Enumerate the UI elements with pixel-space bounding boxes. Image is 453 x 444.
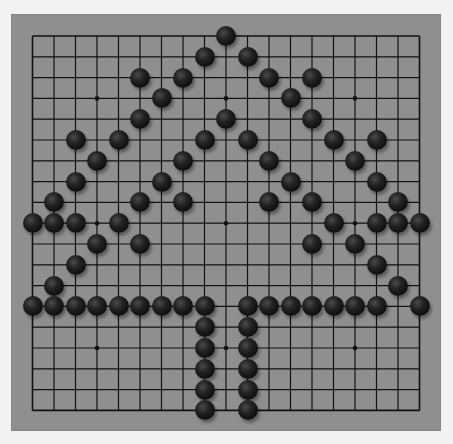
black-stone[interactable] [410, 213, 430, 233]
black-stone[interactable] [238, 130, 258, 150]
black-stone[interactable] [23, 213, 43, 233]
black-stone[interactable] [66, 213, 86, 233]
star-point [95, 96, 100, 101]
black-stone[interactable] [23, 296, 43, 316]
black-stone[interactable] [216, 26, 236, 46]
black-stone[interactable] [152, 296, 172, 316]
go-board[interactable] [11, 14, 441, 431]
black-stone[interactable] [238, 400, 258, 420]
star-point [353, 96, 358, 101]
black-stone[interactable] [109, 130, 129, 150]
black-stone[interactable] [66, 172, 86, 192]
black-stone[interactable] [410, 296, 430, 316]
black-stone[interactable] [259, 68, 279, 88]
black-stone[interactable] [195, 359, 215, 379]
black-stone[interactable] [87, 151, 107, 171]
black-stone[interactable] [302, 68, 322, 88]
star-point [353, 221, 358, 226]
black-stone[interactable] [238, 338, 258, 358]
black-stone[interactable] [345, 234, 365, 254]
black-stone[interactable] [130, 68, 150, 88]
black-stone[interactable] [66, 130, 86, 150]
star-point [353, 346, 358, 351]
black-stone[interactable] [87, 234, 107, 254]
star-point [224, 221, 229, 226]
star-point [224, 96, 229, 101]
black-stone[interactable] [324, 213, 344, 233]
black-stone[interactable] [109, 296, 129, 316]
black-stone[interactable] [152, 172, 172, 192]
black-stone[interactable] [388, 276, 408, 296]
black-stone[interactable] [44, 276, 64, 296]
black-stone[interactable] [152, 88, 172, 108]
black-stone[interactable] [109, 213, 129, 233]
black-stone[interactable] [195, 296, 215, 316]
black-stone[interactable] [195, 400, 215, 420]
black-stone[interactable] [367, 296, 387, 316]
black-stone[interactable] [259, 151, 279, 171]
black-stone[interactable] [173, 68, 193, 88]
black-stone[interactable] [367, 213, 387, 233]
black-stone[interactable] [238, 47, 258, 67]
black-stone[interactable] [367, 130, 387, 150]
black-stone[interactable] [195, 130, 215, 150]
black-stone[interactable] [281, 172, 301, 192]
black-stone[interactable] [173, 151, 193, 171]
black-stone[interactable] [195, 47, 215, 67]
black-stone[interactable] [367, 255, 387, 275]
black-stone[interactable] [195, 317, 215, 337]
black-stone[interactable] [195, 338, 215, 358]
black-stone[interactable] [324, 296, 344, 316]
black-stone[interactable] [281, 88, 301, 108]
black-stone[interactable] [281, 296, 301, 316]
star-point [95, 221, 100, 226]
star-point [95, 346, 100, 351]
black-stone[interactable] [302, 234, 322, 254]
black-stone[interactable] [66, 255, 86, 275]
black-stone[interactable] [130, 234, 150, 254]
black-stone[interactable] [238, 359, 258, 379]
black-stone[interactable] [324, 130, 344, 150]
black-stone[interactable] [345, 151, 365, 171]
star-point [224, 346, 229, 351]
black-stone[interactable] [238, 317, 258, 337]
black-stone[interactable] [66, 296, 86, 316]
black-stone[interactable] [195, 380, 215, 400]
black-stone[interactable] [367, 172, 387, 192]
black-stone[interactable] [238, 380, 258, 400]
black-stone[interactable] [238, 296, 258, 316]
